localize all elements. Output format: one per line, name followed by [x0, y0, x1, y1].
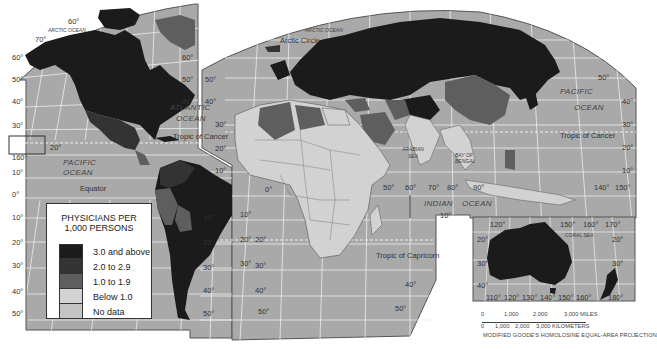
- svg-text:30°: 30°: [240, 259, 251, 268]
- legend-title: PHYSICIANS PER 1,000 PERSONS: [47, 213, 151, 233]
- legend-swatch: [59, 244, 83, 259]
- svg-text:BENGAL: BENGAL: [455, 158, 476, 164]
- svg-text:10°: 10°: [215, 166, 226, 175]
- svg-text:30°: 30°: [203, 263, 214, 272]
- svg-text:150°: 150°: [615, 183, 631, 192]
- svg-text:40°: 40°: [622, 97, 633, 106]
- svg-text:40°: 40°: [255, 286, 266, 295]
- svg-text:PACIFIC: PACIFIC: [560, 87, 593, 96]
- svg-text:70°: 70°: [35, 35, 46, 44]
- svg-text:40°: 40°: [12, 97, 23, 106]
- svg-text:40°: 40°: [477, 281, 488, 290]
- svg-text:10°: 10°: [203, 213, 214, 222]
- legend-items: 3.0 and above 2.0 to 2.9 1.0 to 1.9 Belo…: [59, 244, 150, 319]
- svg-text:50°: 50°: [383, 183, 394, 192]
- legend-item: No data: [59, 304, 150, 319]
- svg-text:20°: 20°: [240, 235, 251, 244]
- svg-text:40°: 40°: [12, 287, 23, 296]
- svg-text:160°: 160°: [12, 153, 28, 162]
- svg-text:20°: 20°: [255, 235, 266, 244]
- svg-text:10°: 10°: [440, 211, 451, 220]
- svg-text:50°: 50°: [395, 304, 406, 313]
- svg-text:Equator: Equator: [80, 184, 107, 193]
- svg-text:20°: 20°: [612, 235, 623, 244]
- svg-text:50°: 50°: [258, 307, 269, 316]
- svg-text:20°: 20°: [622, 143, 633, 152]
- svg-text:30°: 30°: [215, 120, 226, 129]
- svg-text:Tropic of Capricorn: Tropic of Capricorn: [376, 251, 440, 260]
- legend-item: 1.0 to 1.9: [59, 274, 150, 289]
- legend: PHYSICIANS PER 1,000 PERSONS 3.0 and abo…: [46, 203, 152, 319]
- svg-text:Tropic of Cancer: Tropic of Cancer: [560, 131, 616, 140]
- svg-text:30°: 30°: [622, 120, 633, 129]
- svg-text:SEA: SEA: [408, 153, 419, 159]
- legend-swatch: [59, 274, 83, 289]
- svg-text:PACIFIC: PACIFIC: [63, 158, 96, 167]
- svg-text:CORAL SEA: CORAL SEA: [565, 232, 594, 238]
- svg-text:INDIAN: INDIAN: [424, 199, 453, 208]
- svg-text:70°: 70°: [428, 183, 439, 192]
- svg-text:150°: 150°: [560, 220, 576, 229]
- svg-text:10°: 10°: [240, 210, 251, 219]
- svg-text:60°: 60°: [182, 53, 193, 62]
- svg-text:10°: 10°: [12, 168, 23, 177]
- svg-text:130°: 130°: [522, 293, 538, 302]
- svg-text:Tropic of Cancer: Tropic of Cancer: [173, 132, 229, 141]
- legend-item: 2.0 to 2.9: [59, 259, 150, 274]
- svg-text:50°: 50°: [182, 75, 193, 84]
- svg-text:ARABIAN: ARABIAN: [401, 146, 424, 152]
- svg-text:OCEAN: OCEAN: [574, 103, 604, 112]
- svg-text:150°: 150°: [558, 293, 574, 302]
- projection-label: MODIFIED GOODE'S HOMOLOSINE EQUAL-AREA P…: [483, 332, 657, 338]
- svg-text:OCEAN: OCEAN: [462, 199, 492, 208]
- scale-km: 0 1,000 2,000 3,000 KILOMETERS: [478, 323, 644, 331]
- legend-item: Below 1.0: [59, 289, 150, 304]
- svg-text:0°: 0°: [265, 185, 272, 194]
- svg-text:50°: 50°: [12, 309, 23, 318]
- svg-text:50°: 50°: [203, 309, 214, 318]
- svg-text:40°: 40°: [405, 280, 416, 289]
- svg-text:40°: 40°: [203, 286, 214, 295]
- svg-text:Arctic Circle: Arctic Circle: [280, 36, 320, 45]
- svg-text:50°: 50°: [598, 73, 609, 82]
- svg-text:50°: 50°: [12, 75, 23, 84]
- legend-item: 3.0 and above: [59, 244, 150, 259]
- svg-text:170°: 170°: [605, 220, 621, 229]
- svg-text:30°: 30°: [12, 121, 23, 130]
- region-philippines: [505, 150, 515, 170]
- svg-text:40°: 40°: [182, 97, 193, 106]
- svg-text:30°: 30°: [612, 259, 623, 268]
- svg-text:120°: 120°: [504, 293, 520, 302]
- svg-text:110°: 110°: [486, 293, 501, 302]
- svg-text:160°: 160°: [576, 293, 592, 302]
- svg-text:30°: 30°: [255, 261, 266, 270]
- svg-text:ARCTIC OCEAN: ARCTIC OCEAN: [47, 27, 86, 33]
- australia-inset: [473, 217, 635, 301]
- svg-text:60°: 60°: [12, 53, 23, 62]
- svg-text:20°: 20°: [477, 235, 488, 244]
- svg-text:30°: 30°: [12, 261, 23, 270]
- svg-text:180°: 180°: [608, 293, 624, 302]
- legend-swatch: [59, 259, 83, 274]
- svg-text:60°: 60°: [68, 17, 79, 26]
- svg-text:30°: 30°: [477, 259, 488, 268]
- svg-text:ARCTIC OCEAN: ARCTIC OCEAN: [304, 27, 343, 33]
- svg-text:60°: 60°: [405, 183, 416, 192]
- svg-text:140°: 140°: [540, 293, 556, 302]
- svg-text:90°: 90°: [473, 183, 484, 192]
- svg-text:20°: 20°: [12, 238, 23, 247]
- svg-text:120°: 120°: [490, 220, 506, 229]
- svg-text:OCEAN: OCEAN: [176, 114, 206, 123]
- legend-swatch: [59, 289, 83, 304]
- svg-text:0°: 0°: [12, 190, 19, 199]
- legend-swatch: [59, 304, 83, 319]
- scale-miles: 0 1,000 2,000 3,000 MILES: [478, 311, 644, 319]
- svg-text:OCEAN: OCEAN: [63, 168, 93, 177]
- svg-text:160°: 160°: [583, 220, 599, 229]
- svg-text:20°: 20°: [203, 238, 214, 247]
- svg-text:140°: 140°: [594, 183, 610, 192]
- svg-text:40°: 40°: [205, 97, 216, 106]
- svg-text:10°: 10°: [622, 166, 633, 175]
- svg-text:20°: 20°: [215, 144, 226, 153]
- svg-text:20°: 20°: [50, 143, 61, 152]
